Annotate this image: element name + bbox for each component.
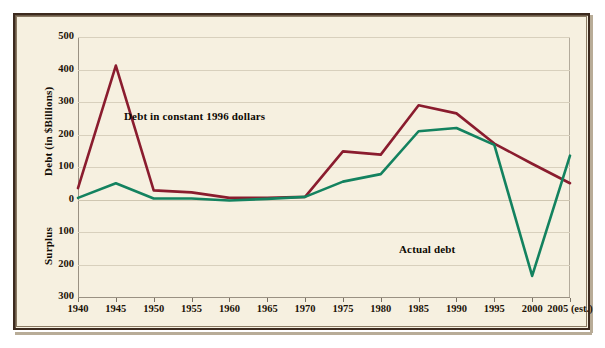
y-axis-tick-label: 0	[46, 193, 74, 204]
x-axis-tick-mark	[192, 298, 193, 302]
chart-figure: 5004003002001000100200300 19401945195019…	[0, 0, 605, 348]
x-axis-tick-mark	[267, 298, 268, 302]
x-axis-tick-mark	[532, 298, 533, 302]
gridline	[78, 232, 570, 233]
x-axis-tick-mark	[381, 298, 382, 302]
x-axis-tick-mark	[116, 298, 117, 302]
y-axis-title-debt: Debt (in $Billions)	[42, 87, 54, 176]
figure-frame-shadow-right	[590, 15, 593, 333]
annotation-constant-dollars: Debt in constant 1996 dollars	[124, 110, 265, 122]
gridline	[78, 265, 570, 266]
gridline	[78, 102, 570, 103]
figure-frame-outer	[13, 13, 590, 330]
gridline	[78, 70, 570, 71]
gridline	[78, 37, 570, 38]
x-axis-tick-mark	[154, 298, 155, 302]
gridline	[78, 167, 570, 168]
annotation-actual-debt: Actual debt	[399, 243, 455, 255]
x-axis-tick-mark	[229, 298, 230, 302]
gridline	[78, 200, 570, 201]
x-axis-tick-mark	[570, 298, 571, 302]
x-axis-tick-label: 2005 (est.)	[530, 303, 605, 314]
gridline	[78, 135, 570, 136]
y-axis-tick-label: 500	[46, 30, 74, 41]
y-axis-title-surplus: Surplus	[42, 227, 54, 265]
y-axis-tick-label: 400	[46, 63, 74, 74]
x-axis-tick-mark	[78, 298, 79, 302]
x-axis-tick-mark	[305, 298, 306, 302]
y-axis-tick-label: 300	[46, 290, 74, 301]
x-axis-tick-mark	[343, 298, 344, 302]
figure-frame-shadow-bottom	[15, 332, 592, 335]
x-axis-tick-mark	[419, 298, 420, 302]
gridline	[78, 297, 570, 298]
x-axis-tick-mark	[494, 298, 495, 302]
x-axis-tick-mark	[456, 298, 457, 302]
